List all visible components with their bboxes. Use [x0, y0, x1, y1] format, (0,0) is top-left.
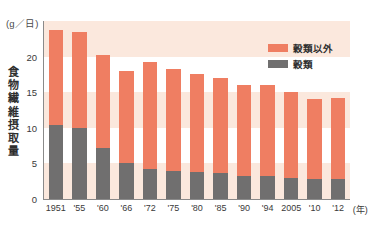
legend-item[interactable]: 穀類以外 — [268, 41, 352, 54]
bar-segment-other — [72, 32, 86, 128]
x-tick-label: 2005 — [281, 203, 301, 213]
bar-segment-cereal — [307, 179, 321, 199]
bar-segment-other — [166, 69, 180, 171]
bar-segment-cereal — [166, 171, 180, 199]
bar-group[interactable] — [72, 21, 86, 199]
bar-segment-cereal — [190, 172, 204, 199]
x-tick-label: 1951 — [46, 203, 66, 213]
bar-segment-other — [119, 71, 133, 163]
y-tick-label: 5 — [32, 158, 37, 169]
y-axis-tick-labels: 05101520 — [0, 21, 43, 199]
x-tick-label: '12 — [332, 203, 344, 213]
x-tick-label: '55 — [73, 203, 85, 213]
x-tick-label: '66 — [121, 203, 133, 213]
y-axis-line — [43, 21, 44, 199]
legend-item[interactable]: 穀類 — [268, 57, 352, 70]
legend-label: 穀類 — [293, 57, 313, 71]
chart-legend: 穀類以外穀類 — [268, 41, 352, 73]
bar-group[interactable] — [96, 21, 110, 199]
y-tick-label: 15 — [26, 87, 37, 98]
bar-segment-cereal — [143, 169, 157, 199]
x-axis-line — [43, 199, 350, 200]
x-tick-label: '60 — [97, 203, 109, 213]
bar-segment-cereal — [96, 148, 110, 199]
bar-segment-cereal — [49, 125, 63, 199]
bar-segment-other — [331, 98, 345, 179]
bar-segment-other — [307, 99, 321, 179]
x-tick-label: '94 — [262, 203, 274, 213]
bar-segment-cereal — [284, 178, 298, 199]
bar-segment-other — [237, 85, 251, 175]
legend-swatch — [268, 44, 288, 52]
bar-group[interactable] — [213, 21, 227, 199]
x-tick-label: '80 — [191, 203, 203, 213]
bar-segment-other — [213, 78, 227, 173]
bar-group[interactable] — [166, 21, 180, 199]
x-tick-label: '90 — [238, 203, 250, 213]
x-tick-label: '10 — [309, 203, 321, 213]
y-tick-label: 20 — [26, 51, 37, 62]
y-tick-label: 10 — [26, 122, 37, 133]
bar-group[interactable] — [237, 21, 251, 199]
bar-segment-cereal — [331, 179, 345, 199]
x-tick-label: '75 — [168, 203, 180, 213]
bar-segment-other — [260, 85, 274, 176]
bar-segment-other — [96, 55, 110, 148]
bar-segment-cereal — [237, 176, 251, 199]
x-axis-unit-label: (年) — [353, 203, 368, 216]
bar-segment-cereal — [119, 163, 133, 199]
x-tick-label: '72 — [144, 203, 156, 213]
legend-swatch — [268, 60, 288, 68]
bar-segment-other — [190, 74, 204, 172]
x-tick-label: '85 — [215, 203, 227, 213]
bar-segment-cereal — [260, 176, 274, 199]
bar-group[interactable] — [49, 21, 63, 199]
bar-segment-cereal — [72, 128, 86, 199]
bar-segment-other — [284, 92, 298, 178]
bar-segment-cereal — [213, 173, 227, 199]
bar-segment-other — [143, 62, 157, 169]
bar-group[interactable] — [119, 21, 133, 199]
legend-label: 穀類以外 — [293, 41, 333, 55]
bar-group[interactable] — [190, 21, 204, 199]
bar-segment-other — [49, 30, 63, 125]
y-tick-label: 0 — [32, 194, 37, 205]
bar-group[interactable] — [143, 21, 157, 199]
x-axis-tick-labels: 1951'55'60'66'72'75'80'85'90'942005'10'1… — [44, 201, 350, 221]
